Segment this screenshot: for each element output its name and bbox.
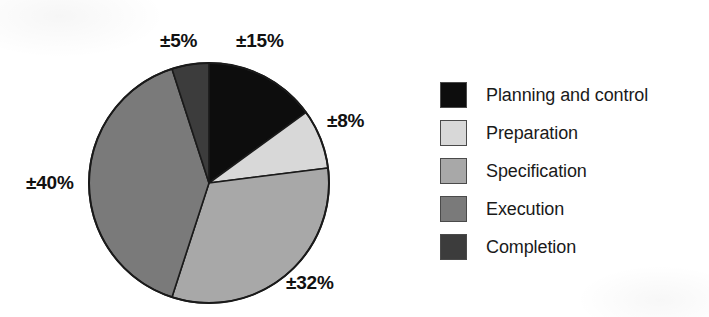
pie-label-completion: ±5% [160,30,197,52]
legend-item-label: Preparation [486,123,578,144]
legend-item-completion: Completion [440,228,690,266]
pie-label-execution: ±40% [26,172,74,194]
pie-chart-svg [0,0,420,317]
legend-item-preparation: Preparation [440,114,690,152]
chart-legend: Planning and controlPreparationSpecifica… [440,76,690,266]
legend-item-planning-and-control: Planning and control [440,76,690,114]
legend-item-label: Execution [486,199,564,220]
legend-item-specification: Specification [440,152,690,190]
legend-item-execution: Execution [440,190,690,228]
pie-slice-group [89,63,329,303]
legend-swatch-icon [440,82,467,108]
legend-swatch-icon [440,158,467,184]
legend-swatch-icon [440,196,467,222]
pie-label-preparation: ±8% [327,110,364,132]
pie-label-specification: ±32% [286,272,334,294]
pie-label-planning: ±15% [236,30,284,52]
legend-swatch-icon [440,120,467,146]
legend-item-label: Planning and control [486,85,648,106]
legend-item-label: Completion [486,237,576,258]
pie-chart-figure: ±5% ±15% ±8% ±32% ±40% [0,0,420,317]
legend-swatch-icon [440,234,467,260]
legend-item-label: Specification [486,161,587,182]
